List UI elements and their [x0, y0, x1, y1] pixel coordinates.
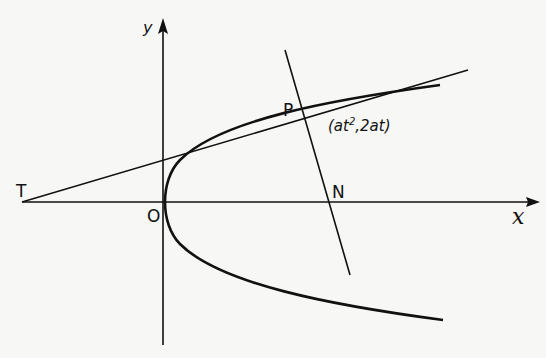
y-axis-label: y [143, 20, 152, 36]
x-axis-label: x [512, 206, 524, 228]
point-p-label: P [283, 102, 293, 119]
point-p-coordinates: (at2,2at) [328, 117, 391, 134]
point-t-label: T [16, 183, 26, 200]
coord-open: (at [328, 117, 349, 135]
x-axis-arrow-icon [526, 197, 540, 207]
tangent-line [22, 70, 468, 202]
coord-rest: ,2at) [355, 117, 390, 135]
diagram-graphic [0, 0, 546, 358]
normal-line [285, 50, 350, 275]
parabola-diagram: y x T O P N (at2,2at) [0, 0, 546, 358]
point-o-label: O [147, 208, 160, 225]
point-n-label: N [332, 184, 345, 201]
